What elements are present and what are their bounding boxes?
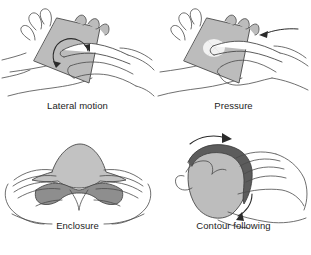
tile-knuckle-3 bbox=[99, 24, 109, 35]
contour-following-illustration bbox=[156, 128, 311, 230]
panel-contour: Contour following bbox=[156, 128, 311, 255]
blob-object-top bbox=[32, 144, 126, 188]
exploratory-procedures-figure: Lateral motion bbox=[0, 0, 311, 255]
contour-arrow-top-path bbox=[190, 136, 226, 144]
tile-knuckle-3 bbox=[249, 24, 259, 35]
right-hand-back-top bbox=[280, 53, 308, 66]
panel-pressure: Pressure bbox=[156, 0, 311, 127]
lower-hand-wrist-line bbox=[8, 78, 92, 96]
left-finger-3 bbox=[171, 25, 185, 40]
lower-hand-wrist-line bbox=[158, 78, 242, 96]
right-hand-back-top bbox=[128, 55, 154, 70]
left-finger-1 bbox=[29, 13, 42, 30]
pressure-arrow-head bbox=[259, 31, 268, 38]
hand-outer-contour bbox=[276, 154, 307, 210]
contour-arrow-top-head bbox=[222, 133, 232, 143]
caption-pressure: Pressure bbox=[156, 100, 311, 112]
panel-enclosure: Enclosure bbox=[0, 128, 155, 255]
right-hand-back-bottom bbox=[272, 78, 308, 90]
panel-lateral-motion: Lateral motion bbox=[0, 0, 155, 127]
pressure-arrow-path bbox=[264, 29, 298, 34]
left-forearm-top bbox=[2, 53, 26, 60]
caption-lateral-motion: Lateral motion bbox=[0, 100, 155, 112]
enclosure-illustration bbox=[0, 128, 155, 230]
pressure-illustration bbox=[156, 0, 311, 102]
left-finger-1 bbox=[179, 13, 192, 30]
lateral-motion-illustration bbox=[0, 0, 155, 102]
right-hand-back-bottom bbox=[136, 86, 154, 96]
caption-enclosure: Enclosure bbox=[0, 220, 155, 232]
caption-contour-following: Contour following bbox=[156, 220, 311, 232]
palm-lower-edge bbox=[238, 189, 304, 206]
left-finger-3 bbox=[21, 25, 35, 40]
